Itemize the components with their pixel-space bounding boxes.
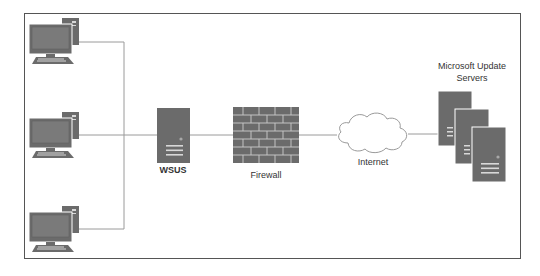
computer-icon[interactable] [28, 17, 82, 65]
internet-label: Internet [348, 157, 398, 168]
cloud-icon[interactable] [334, 109, 412, 155]
server-icon[interactable] [157, 108, 190, 163]
wsus-label: WSUS [153, 165, 193, 176]
firewall-icon[interactable] [233, 107, 299, 163]
computer-icon[interactable] [28, 205, 82, 253]
firewall-label: Firewall [241, 170, 291, 181]
ms-update-label-line2: Servers [427, 73, 517, 84]
server-stack-icon[interactable] [437, 90, 509, 184]
ms-update-label-line1: Microsoft Update [427, 61, 517, 72]
computer-icon[interactable] [28, 111, 82, 159]
